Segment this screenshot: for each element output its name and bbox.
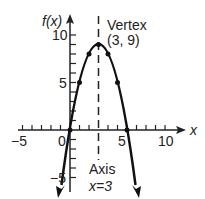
right-arrow-icon xyxy=(132,185,141,198)
y-tick-neg5: −5 xyxy=(50,171,66,185)
y-axis-label: f(x) xyxy=(42,14,62,28)
vertex-coords: (3, 9) xyxy=(107,33,140,47)
x-tick-5: 5 xyxy=(118,134,126,148)
axis-label: Axis xyxy=(89,162,115,176)
vertex-label: Vertex xyxy=(107,18,147,32)
x-axis-label: x xyxy=(190,123,197,137)
left-arrow-icon xyxy=(56,185,65,198)
y-tick-5: 5 xyxy=(59,76,67,90)
x-tick-0: 0 xyxy=(58,134,66,148)
x-tick-10: 10 xyxy=(158,134,174,148)
x-tick-neg5: −5 xyxy=(11,134,27,148)
axis-equation: x=3 xyxy=(89,179,112,193)
y-tick-10: 10 xyxy=(52,28,68,42)
